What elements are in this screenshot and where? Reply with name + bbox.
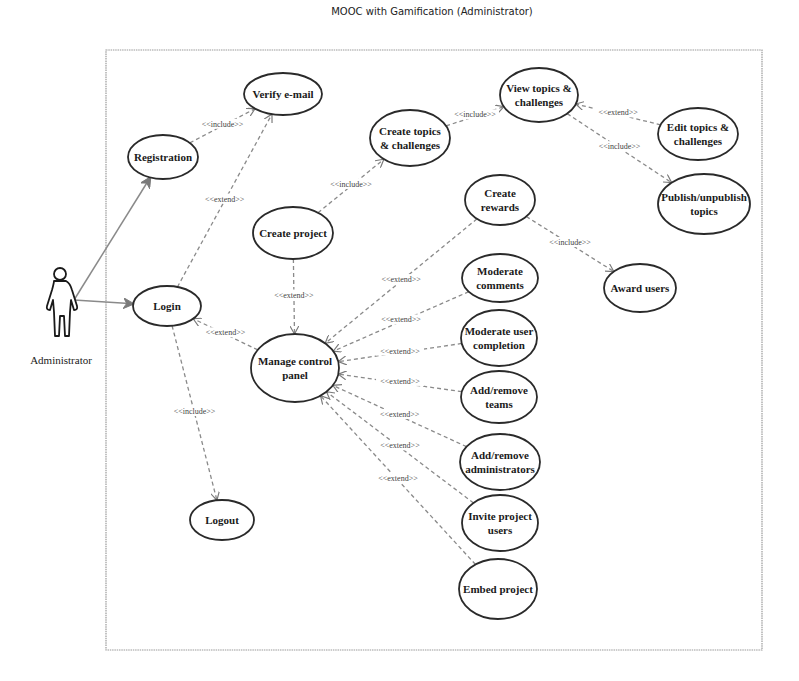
use-case-label: & challenges — [380, 139, 441, 151]
stereotype-label: <<extend>> — [380, 410, 420, 419]
actor-label: Administrator — [30, 354, 92, 366]
stereotype-label: <<extend>> — [380, 347, 420, 356]
use-case-label: Create — [484, 187, 516, 199]
use-case-registration[interactable]: Registration — [128, 135, 198, 179]
stereotype-label: <<include>> — [174, 407, 216, 416]
use-case-label: Login — [153, 300, 181, 312]
use-case-ellipse — [461, 371, 537, 423]
use-case-ellipse — [370, 110, 450, 166]
use-case-invite[interactable]: Invite projectusers — [462, 495, 538, 551]
use-case-ellipse — [462, 254, 538, 302]
use-case-label: Invite project — [468, 510, 532, 522]
stereotype-label: <<extend>> — [274, 291, 314, 300]
stereotype-label: <<extend>> — [206, 328, 246, 337]
use-case-verify[interactable]: Verify e-mail — [244, 73, 322, 115]
actor-administrator[interactable]: Administrator — [30, 268, 92, 366]
use-case-label: Verify e-mail — [253, 88, 314, 100]
use-case-diagram: MOOC with Gamification (Administrator) <… — [0, 0, 799, 681]
use-case-label: teams — [485, 398, 513, 410]
use-case-label: Logout — [205, 514, 239, 526]
use-case-label: Add/remove — [470, 384, 528, 396]
use-case-logout[interactable]: Logout — [190, 500, 254, 540]
use-case-label: View topics & — [506, 82, 572, 94]
use-case-label: Add/remove — [471, 449, 529, 461]
use-case-create-topics[interactable]: Create topics& challenges — [370, 110, 450, 166]
use-case-label: Publish/unpublish — [661, 191, 747, 203]
use-case-label: challenges — [515, 96, 564, 108]
use-case-ellipse — [658, 174, 750, 234]
use-case-ellipse — [658, 108, 738, 160]
use-case-teams[interactable]: Add/removeteams — [461, 371, 537, 423]
use-case-admins[interactable]: Add/removeadministrators — [460, 434, 540, 490]
stereotype-label: <<extend>> — [380, 377, 420, 386]
use-case-publish[interactable]: Publish/unpublishtopics — [658, 174, 750, 234]
stereotype-label: <<include>> — [549, 238, 591, 247]
association-registration — [74, 177, 150, 300]
use-case-label: comments — [476, 279, 524, 291]
use-case-label: Manage control — [258, 355, 332, 367]
use-case-label: Award users — [611, 282, 670, 294]
stereotype-label: <<include>> — [330, 180, 372, 189]
use-case-mod-completion[interactable]: Moderate usercompletion — [461, 310, 537, 366]
use-case-label: Create topics — [379, 125, 442, 137]
stereotype-label: <<extend>> — [205, 195, 245, 204]
use-case-manage-panel[interactable]: Manage controlpanel — [251, 334, 339, 402]
use-case-label: Embed project — [463, 583, 533, 595]
stereotype-label: <<extend>> — [381, 275, 421, 284]
use-case-label: administrators — [465, 463, 535, 475]
use-case-embed[interactable]: Embed project — [459, 559, 537, 619]
use-case-label: challenges — [674, 135, 723, 147]
use-case-label: panel — [282, 369, 308, 381]
use-case-login[interactable]: Login — [133, 286, 201, 326]
stereotype-label: <<include>> — [202, 120, 244, 129]
use-cases: RegistrationVerify e-mailCreate topics& … — [128, 68, 750, 619]
use-case-ellipse — [460, 434, 540, 490]
association-login — [74, 300, 133, 304]
use-case-ellipse — [462, 495, 538, 551]
diagram-title: MOOC with Gamification (Administrator) — [331, 6, 533, 17]
stereotype-label: <<extend>> — [378, 474, 418, 483]
use-case-label: Moderate — [477, 265, 523, 277]
use-case-label: Create project — [259, 227, 327, 239]
stereotype-label: <<extend>> — [381, 315, 421, 324]
use-case-label: users — [488, 524, 513, 536]
use-case-label: Edit topics & — [667, 121, 729, 133]
stereotype-label: <<include>> — [599, 142, 641, 151]
use-case-ellipse — [500, 68, 578, 122]
use-case-label: Moderate user — [465, 325, 534, 337]
use-case-award-users[interactable]: Award users — [604, 264, 676, 312]
stereotype-label: <<include>> — [454, 110, 496, 119]
stick-figure-icon — [47, 268, 77, 336]
use-case-label: completion — [473, 339, 525, 351]
use-case-ellipse — [251, 334, 339, 402]
use-case-label: topics — [690, 205, 718, 217]
use-case-ellipse — [465, 175, 535, 225]
use-case-view-topics[interactable]: View topics &challenges — [500, 68, 578, 122]
stereotype-label: <<extend>> — [380, 441, 420, 450]
use-case-create-project[interactable]: Create project — [253, 207, 333, 259]
stereotype-label: <<extend>> — [598, 108, 638, 117]
use-case-ellipse — [461, 310, 537, 366]
use-case-edit-topics[interactable]: Edit topics &challenges — [658, 108, 738, 160]
use-case-mod-comments[interactable]: Moderatecomments — [462, 254, 538, 302]
use-case-label: rewards — [481, 201, 520, 213]
use-case-create-rewards[interactable]: Createrewards — [465, 175, 535, 225]
use-case-label: Registration — [134, 151, 192, 163]
